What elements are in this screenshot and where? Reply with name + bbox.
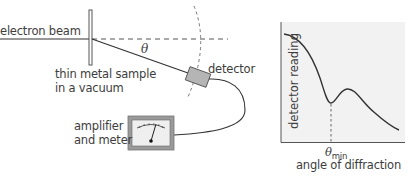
cable [174,79,245,135]
sample-label-line1: thin metal sample [55,67,156,81]
amplifier-label-line2: and meter [74,133,132,147]
electron-beam-label: electron beam [0,24,81,38]
detector-label: detector [208,62,255,76]
theta-symbol: θ [325,145,332,159]
amplifier-meter-icon [128,116,174,150]
amplifier-label-line1: amplifier [74,119,123,133]
detector-icon [185,67,210,88]
x-axis-label: angle of diffraction [296,158,401,172]
metal-sample [89,10,92,65]
y-axis-label: detector reading [287,21,301,141]
theta-label: θ [141,42,148,56]
sample-label-line2: in a vacuum [55,81,124,95]
